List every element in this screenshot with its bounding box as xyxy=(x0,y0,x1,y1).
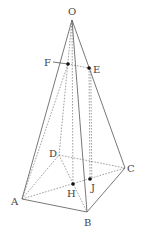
pyramid-diagram: O F E D C A B H J xyxy=(0,0,146,234)
edge-AB xyxy=(22,199,87,212)
segment-FE xyxy=(68,64,89,68)
segment-EJ xyxy=(89,68,90,179)
label-F: F xyxy=(44,57,51,68)
point-J xyxy=(88,177,92,181)
edge-DC xyxy=(59,155,125,168)
label-D: D xyxy=(49,148,57,159)
label-J: J xyxy=(90,182,95,193)
label-A: A xyxy=(10,196,19,207)
segment-EJ-2 xyxy=(91,68,92,179)
edge-AD xyxy=(22,155,59,199)
edge-OD xyxy=(59,20,72,155)
label-E: E xyxy=(93,64,100,75)
label-H: H xyxy=(67,188,76,199)
point-F xyxy=(66,62,70,66)
label-O: O xyxy=(68,6,76,17)
label-B: B xyxy=(84,217,91,228)
edge-OC xyxy=(72,20,125,168)
segment-OH xyxy=(72,20,73,184)
point-E xyxy=(87,66,91,70)
edge-OA xyxy=(22,20,72,199)
point-H xyxy=(71,182,75,186)
label-C: C xyxy=(127,163,135,174)
